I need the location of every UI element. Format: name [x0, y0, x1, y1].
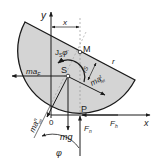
moment-label: JSφ̈ [55, 48, 70, 58]
origin-label: 0 [49, 118, 54, 127]
friction-force-label: Fh [110, 119, 118, 129]
x-dimension-label: x [62, 18, 68, 27]
x-axis-label: x [143, 118, 149, 128]
point-p-label: P [81, 104, 87, 114]
radius-label: r [112, 57, 115, 66]
normal-force-label: Fn [84, 124, 92, 134]
point-m [78, 50, 82, 54]
point-m-label: M [83, 44, 91, 54]
y-axis-label: y [40, 10, 47, 21]
point-s-label: S [61, 65, 67, 75]
free-body-diagram: y x x 0 M S P r rS JSφ̈ maF matrel manre… [0, 0, 160, 162]
angle-label: φ [56, 148, 62, 158]
